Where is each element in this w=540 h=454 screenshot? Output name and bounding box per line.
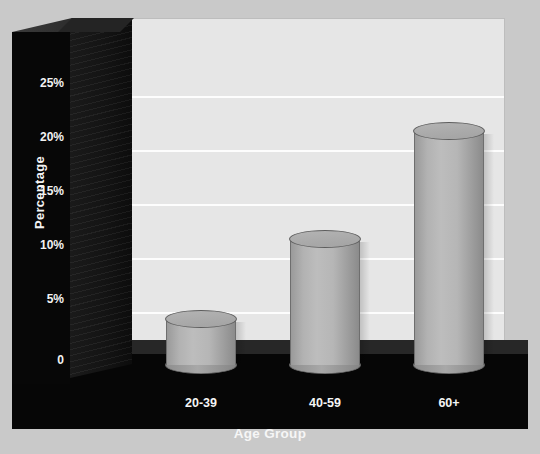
x-axis-title: Age Group [12,426,528,441]
x-tick-label-40-59: 40-59 [265,396,385,410]
y-axis-title: Percentage [32,138,47,248]
chart-screenshot: 25% 20% 15% 10% 5% 0 Percentage 20-39 40… [0,0,540,454]
bar-top-ellipse [165,310,237,328]
y-tick-label-5: 5% [16,292,64,306]
x-tick-label-60-plus: 60+ [389,396,509,410]
chart-3d-scene: 25% 20% 15% 10% 5% 0 Percentage 20-39 40… [12,10,528,442]
bar-60-plus[interactable] [414,122,484,365]
y-tick-label-25: 25% [16,76,64,90]
clipped-chart-title [0,0,540,9]
bar-shadow [236,322,246,363]
bar-top-ellipse [289,230,361,248]
value-axis-wall-inner [70,18,132,378]
y-tick-label-0: 0 [16,353,64,367]
bar-40-59[interactable] [290,230,360,365]
bar-body [414,131,484,365]
bar-shadow [360,242,370,363]
x-tick-label-20-39: 20-39 [141,396,261,410]
bar-shadow [484,134,494,363]
bar-20-39[interactable] [166,310,236,365]
gridline-25 [132,96,504,98]
bar-top-ellipse [413,122,485,140]
bar-body [290,239,360,365]
